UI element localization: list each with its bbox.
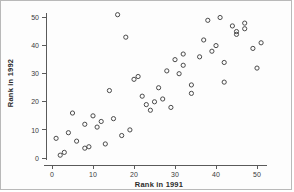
data-point — [234, 32, 238, 36]
data-point — [161, 97, 165, 101]
data-point — [243, 21, 247, 25]
data-point — [91, 114, 95, 118]
data-point — [54, 136, 58, 140]
data-point — [214, 44, 218, 48]
data-point — [189, 83, 193, 87]
scatter-plot: 01020304050 01020304050 Rank in 1991 Ran… — [1, 1, 293, 191]
data-point — [75, 139, 79, 143]
data-point — [132, 77, 136, 81]
data-point — [218, 15, 222, 19]
x-tick-label: 10 — [89, 171, 97, 178]
data-point — [251, 46, 255, 50]
x-tick-label: 50 — [253, 171, 261, 178]
data-point — [206, 18, 210, 22]
data-point — [124, 35, 128, 39]
y-tick-label: 50 — [31, 14, 39, 21]
data-point — [95, 125, 99, 129]
x-axis: 01020304050 — [44, 165, 267, 178]
data-point — [255, 66, 259, 70]
data-point — [70, 111, 74, 115]
data-point — [128, 128, 132, 132]
data-point — [222, 80, 226, 84]
data-point — [152, 100, 156, 104]
data-point — [198, 55, 202, 59]
y-tick-label: 10 — [31, 127, 39, 134]
data-point — [243, 27, 247, 31]
data-point — [58, 153, 62, 157]
data-point — [173, 58, 177, 62]
data-point — [181, 63, 185, 67]
data-point — [116, 13, 120, 17]
data-point — [157, 86, 161, 90]
y-axis: 01020304050 — [31, 13, 46, 162]
y-tick-label: 0 — [35, 155, 39, 162]
chart-frame: 01020304050 01020304050 Rank in 1991 Ran… — [0, 0, 292, 190]
data-point — [230, 24, 234, 28]
data-point — [87, 145, 91, 149]
data-point — [99, 119, 103, 123]
x-tick-label: 0 — [50, 171, 54, 178]
data-point — [189, 91, 193, 95]
data-point — [83, 122, 87, 126]
y-tick-label: 20 — [31, 98, 39, 105]
data-point — [210, 49, 214, 53]
data-point — [66, 131, 70, 135]
data-point — [202, 38, 206, 42]
data-point — [177, 72, 181, 76]
data-point — [136, 74, 140, 78]
data-point — [83, 146, 87, 150]
data-point — [259, 41, 263, 45]
x-axis-title: Rank in 1991 — [135, 180, 183, 189]
data-point — [222, 60, 226, 64]
data-points — [54, 13, 263, 158]
data-point — [103, 142, 107, 146]
data-point — [165, 69, 169, 73]
data-point — [169, 105, 173, 109]
data-point — [181, 52, 185, 56]
data-point — [107, 88, 111, 92]
y-tick-label: 40 — [31, 42, 39, 49]
data-point — [111, 117, 115, 121]
data-point — [120, 133, 124, 137]
data-point — [144, 103, 148, 107]
data-point — [62, 150, 66, 154]
x-tick-label: 20 — [130, 171, 138, 178]
y-tick-label: 30 — [31, 70, 39, 77]
y-axis-title: Rank in 1992 — [6, 59, 15, 107]
data-point — [148, 108, 152, 112]
x-tick-label: 30 — [171, 171, 179, 178]
data-point — [140, 94, 144, 98]
x-tick-label: 40 — [212, 171, 220, 178]
